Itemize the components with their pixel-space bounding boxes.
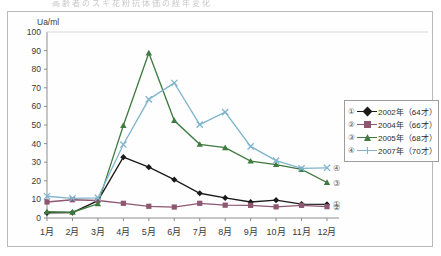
legend-label-2004: 2004年（66才） xyxy=(377,119,437,130)
data-point-marker xyxy=(171,80,177,86)
y-axis-tick-label: 100 xyxy=(27,27,41,37)
series-end-label-②: ② xyxy=(333,203,340,212)
y-axis-tick-label: 50 xyxy=(32,120,42,130)
y-axis-tick-label: 0 xyxy=(36,213,41,223)
x-axis-category-label: 3月 xyxy=(91,227,105,237)
legend-item-2002[interactable]: ① 2002年（64才） xyxy=(348,105,435,118)
legend-number-1: ① xyxy=(348,107,357,116)
y-axis-tick-label: 40 xyxy=(32,139,42,149)
legend-swatch-square-icon xyxy=(357,119,377,130)
data-point-marker xyxy=(273,197,279,203)
data-point-marker xyxy=(120,154,126,160)
legend-number-2: ② xyxy=(348,120,357,129)
legend-label-2007: 2007年（70才） xyxy=(377,145,437,156)
data-point-marker xyxy=(171,117,177,123)
legend-swatch-diamond-icon xyxy=(357,106,377,117)
y-axis-tick-label: 10 xyxy=(32,194,42,204)
series-③ xyxy=(44,50,330,215)
series-line xyxy=(47,83,327,198)
y-axis-tick-label: 20 xyxy=(32,176,42,186)
x-axis-category-label: 8月 xyxy=(218,227,232,237)
data-point-marker xyxy=(146,96,152,102)
scan-header-ghost-text: 高齢者のスギ花粉抗体価の経年変化 xyxy=(52,0,212,8)
data-point-marker xyxy=(146,50,152,56)
y-axis-tick-label: 70 xyxy=(32,83,42,93)
data-point-marker xyxy=(146,164,152,170)
y-axis-tick-label: 80 xyxy=(32,64,42,74)
scan-header-strip: 高齢者のスギ花粉抗体価の経年変化 xyxy=(0,0,441,11)
data-point-marker xyxy=(247,158,253,164)
data-point-marker xyxy=(171,177,177,183)
chart-legend: ① 2002年（64才） ② 2004年（66才） ③ 2005年（68才） xyxy=(344,100,439,162)
legend-swatch-triangle-icon xyxy=(357,132,377,143)
x-axis-category-label: 9月 xyxy=(244,227,258,237)
legend-number-4: ④ xyxy=(348,146,357,155)
series-end-label-④: ④ xyxy=(333,164,340,173)
data-point-marker xyxy=(299,203,304,208)
data-point-marker xyxy=(120,141,126,147)
series-end-label-③: ③ xyxy=(333,179,340,188)
data-point-marker xyxy=(44,199,49,204)
x-axis-category-label: 4月 xyxy=(116,227,130,237)
x-axis-category-label: 12月 xyxy=(317,227,336,237)
data-point-marker xyxy=(223,203,228,208)
x-axis-category-label: 1月 xyxy=(40,227,54,237)
data-point-marker xyxy=(146,204,151,209)
legend-label-2002: 2002年（64才） xyxy=(377,106,437,117)
x-axis-category-label: 6月 xyxy=(167,227,181,237)
data-point-marker xyxy=(172,204,177,209)
data-point-marker xyxy=(248,143,254,149)
figure-frame: Ua/ml01020304050607080901001月2月3月4月5月6月7… xyxy=(7,11,433,247)
data-point-marker xyxy=(324,179,330,185)
x-axis-category-label: 7月 xyxy=(193,227,207,237)
legend-item-2004[interactable]: ② 2004年（66才） xyxy=(348,118,435,131)
series-line xyxy=(47,53,327,212)
data-point-marker xyxy=(120,122,126,128)
data-point-marker xyxy=(248,203,253,208)
legend-swatch-cross-icon xyxy=(357,145,377,156)
y-axis-tick-label: 30 xyxy=(32,157,42,167)
data-point-marker xyxy=(222,109,228,115)
legend-number-3: ③ xyxy=(348,133,357,142)
legend-item-2007[interactable]: ④ 2007年（70才） xyxy=(348,144,435,157)
x-axis-category-label: 10月 xyxy=(267,227,286,237)
series-line xyxy=(47,157,327,213)
data-point-marker xyxy=(273,204,278,209)
x-axis-category-label: 2月 xyxy=(65,227,79,237)
legend-item-2005[interactable]: ③ 2005年（68才） xyxy=(348,131,435,144)
legend-label-2005: 2005年（68才） xyxy=(377,132,437,143)
y-axis-tick-label: 60 xyxy=(32,101,42,111)
data-point-marker xyxy=(324,204,329,209)
series-④ xyxy=(44,80,330,202)
y-axis-tick-label: 90 xyxy=(32,46,42,56)
x-axis-category-label: 5月 xyxy=(142,227,156,237)
x-axis-category-label: 11月 xyxy=(292,227,310,237)
data-point-marker xyxy=(121,201,126,206)
data-point-marker xyxy=(197,190,203,196)
data-point-marker xyxy=(222,195,228,201)
data-point-marker xyxy=(197,201,202,206)
data-point-marker xyxy=(197,122,203,128)
y-axis-unit-label: Ua/ml xyxy=(37,17,59,27)
